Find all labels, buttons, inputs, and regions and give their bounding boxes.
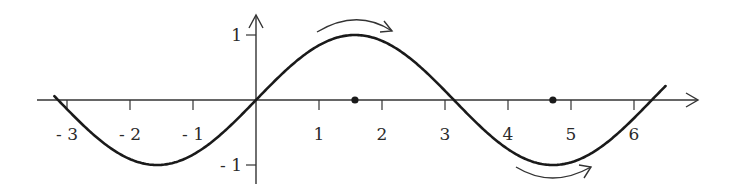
marked-point-dot [549,96,556,103]
y-tick-label: 1 [231,25,242,45]
marked-point-dot [351,96,358,103]
x-tick-label: 1 [314,124,325,144]
x-tick-label: 5 [566,124,577,144]
x-tick-label: 4 [503,124,514,144]
x-tick-label: - 2 [119,124,141,144]
x-tick-label: 2 [377,124,388,144]
curved-arrow-top [317,20,392,32]
x-tick-label: 6 [629,124,640,144]
x-tick-label: - 1 [182,124,204,144]
x-tick-label: 3 [440,124,451,144]
sine-plot-canvas: - 3- 2- 11234561- 1 [0,0,730,193]
x-tick-label: - 3 [56,124,78,144]
y-tick-label: - 1 [220,155,242,175]
sine-graph: - 3- 2- 11234561- 1 [0,0,730,193]
axes [37,15,698,184]
curved-arrow-bottom [516,167,591,178]
